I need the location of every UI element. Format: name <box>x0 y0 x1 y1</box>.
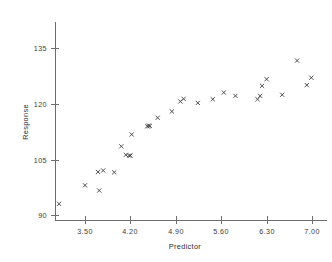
data-point <box>255 97 259 101</box>
data-point <box>97 188 101 192</box>
data-point <box>280 93 284 97</box>
data-point <box>156 116 160 120</box>
data-point <box>57 202 61 206</box>
data-point <box>101 168 105 172</box>
data-point <box>83 183 87 187</box>
x-tick-label-4-90: 4.90 <box>168 227 184 236</box>
y-axis-title: Response <box>21 104 30 140</box>
data-point <box>233 94 237 98</box>
y-tick-label-135: 135 <box>34 44 47 53</box>
x-axis-tick-labels: 3.50 4.20 4.90 5.60 6.30 7.00 <box>77 227 320 236</box>
data-point <box>170 109 174 113</box>
y-axis-tick-labels: 135 120 105 90 <box>34 44 47 220</box>
data-point-layer <box>57 59 313 206</box>
data-point <box>222 90 226 94</box>
data-point <box>181 97 185 101</box>
data-point <box>119 144 123 148</box>
data-point <box>211 97 215 101</box>
x-tick-label-7-00: 7.00 <box>304 227 320 236</box>
data-point <box>258 94 262 98</box>
data-point <box>295 59 299 63</box>
data-point <box>196 101 200 105</box>
scatter-plot-figure: 135 120 105 90 3.50 4.20 4.90 5.60 6.30 … <box>0 0 332 262</box>
x-tick-label-4-20: 4.20 <box>122 227 138 236</box>
data-point <box>265 77 269 81</box>
data-point <box>260 84 264 88</box>
data-point <box>112 170 116 174</box>
x-tick-label-3-50: 3.50 <box>77 227 93 236</box>
data-point <box>130 132 134 136</box>
data-point <box>96 170 100 174</box>
y-tick-label-105: 105 <box>34 156 47 165</box>
data-point <box>305 83 309 87</box>
y-tick-label-120: 120 <box>34 100 47 109</box>
x-axis-title: Predictor <box>169 242 202 251</box>
data-point <box>178 99 182 103</box>
data-point <box>309 76 313 80</box>
y-tick-label-90: 90 <box>38 211 47 220</box>
plot-canvas: 135 120 105 90 3.50 4.20 4.90 5.60 6.30 … <box>0 0 332 262</box>
x-tick-label-5-60: 5.60 <box>213 227 229 236</box>
x-tick-label-6-30: 6.30 <box>259 227 275 236</box>
